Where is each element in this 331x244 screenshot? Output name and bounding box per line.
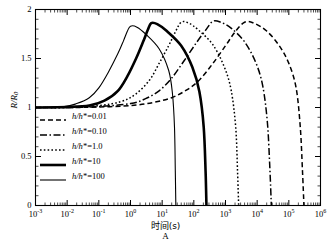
legend-label: h/h*=0.10	[72, 126, 107, 136]
legend-label: h/h*=10	[72, 156, 100, 166]
y-tick-label: 0.5	[10, 151, 32, 161]
x-tick-mantissa: 10	[125, 208, 134, 218]
x-tick-label: 101	[147, 208, 177, 219]
x-tick-exponent: -3	[37, 208, 42, 214]
legend-ratio: h/h	[72, 111, 83, 121]
legend-line-sample	[40, 111, 66, 121]
x-tick-mantissa: 10	[251, 208, 260, 218]
legend-ratio: h/h	[72, 126, 83, 136]
x-tick-exponent: 5	[292, 208, 295, 214]
x-tick-mantissa: 10	[156, 208, 165, 218]
y-axis-label-sub: 0	[12, 92, 19, 95]
x-tick-mantissa: 10	[188, 208, 197, 218]
legend-line-sample	[40, 126, 66, 136]
x-tick-exponent: 3	[228, 208, 231, 214]
legend-line-sample	[40, 141, 66, 151]
legend-item: h/h*=0.01	[40, 108, 107, 123]
legend-ratio: h/h	[72, 156, 83, 166]
x-tick-label: 104	[242, 208, 272, 219]
legend-label: h/h*=100	[72, 171, 105, 181]
legend-label: h/h*=1.0	[72, 141, 103, 151]
x-tick-label: 105	[274, 208, 304, 219]
x-tick-exponent: 2	[197, 208, 200, 214]
x-tick-label: 10-1	[84, 208, 114, 219]
y-axis-label: R/R0	[9, 70, 19, 130]
x-tick-exponent: 0	[133, 208, 136, 214]
legend-line-sample	[40, 156, 66, 166]
legend-value: =1.0	[87, 141, 102, 151]
legend-value: =0.01	[87, 111, 107, 121]
x-tick-mantissa: 10	[29, 208, 38, 218]
x-tick-exponent: -1	[101, 208, 106, 214]
legend-label: h/h*=0.01	[72, 111, 107, 121]
legend-value: =100	[87, 171, 105, 181]
x-tick-label: 102	[179, 208, 209, 219]
legend-item: h/h*=1.0	[40, 138, 107, 153]
x-tick-label: 103	[211, 208, 241, 219]
legend-ratio: h/h	[72, 171, 83, 181]
x-tick-exponent: -2	[69, 208, 74, 214]
legend-item: h/h*=100	[40, 168, 107, 183]
chart-legend: h/h*=0.01h/h*=0.10h/h*=1.0h/h*=10h/h*=10…	[40, 108, 107, 183]
x-tick-exponent: 6	[323, 208, 326, 214]
legend-item: h/h*=0.10	[40, 123, 107, 138]
x-tick-label: 106	[306, 208, 331, 219]
legend-item: h/h*=10	[40, 153, 107, 168]
x-tick-label: 10-2	[52, 208, 82, 219]
x-tick-label: 10-3	[21, 208, 51, 219]
x-tick-exponent: 4	[260, 208, 263, 214]
x-tick-mantissa: 10	[92, 208, 101, 218]
panel-label: A	[0, 231, 331, 241]
y-tick-label: 1	[10, 102, 32, 112]
legend-value: =0.10	[87, 126, 107, 136]
y-tick-label: 2	[10, 4, 32, 14]
legend-line-sample	[40, 171, 66, 181]
x-tick-label: 100	[116, 208, 146, 219]
figure-panel-a: R/R0 00.511.52 10-310-210-11001011021031…	[0, 0, 331, 244]
x-tick-mantissa: 10	[315, 208, 324, 218]
y-tick-label: 1.5	[10, 53, 32, 63]
x-tick-mantissa: 10	[283, 208, 292, 218]
x-tick-mantissa: 10	[220, 208, 229, 218]
legend-ratio: h/h	[72, 141, 83, 151]
x-tick-mantissa: 10	[60, 208, 69, 218]
legend-value: =10	[87, 156, 100, 166]
x-tick-exponent: 1	[165, 208, 168, 214]
